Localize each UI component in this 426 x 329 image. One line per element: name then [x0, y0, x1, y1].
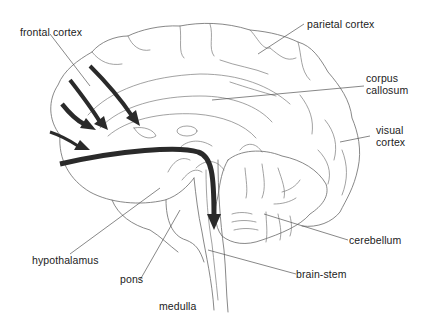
cerebellum-outline [215, 151, 327, 243]
leader-pons [140, 210, 180, 280]
label-pons: pons [120, 273, 143, 285]
temporal-lower [112, 200, 178, 252]
gyri [92, 24, 347, 195]
brain-diagram [0, 0, 426, 329]
leader-hypothalamus [70, 188, 160, 254]
leader-brain-stem [208, 250, 296, 274]
label-parietal-cortex: parietal cortex [307, 18, 374, 30]
thalamus-oval [177, 126, 197, 136]
leader-corpus-callosum [212, 86, 364, 100]
label-corpus-callosum-1: corpus [366, 72, 398, 84]
fornix [134, 127, 156, 137]
leader-parietal-cortex [258, 24, 304, 54]
pathway-arrows [50, 66, 221, 230]
leader-visual-cortex [340, 136, 370, 142]
label-visual-cortex-2: cortex [376, 136, 405, 148]
corpus-callosum-upper [100, 96, 272, 128]
label-medulla: medulla [159, 300, 196, 312]
cerebellum-folia [232, 164, 300, 242]
label-hypothalamus: hypothalamus [32, 254, 99, 266]
label-cerebellum: cerebellum [349, 234, 401, 246]
label-corpus-callosum-2: callosum [366, 84, 408, 96]
label-frontal-cortex: frontal cortex [20, 26, 82, 38]
label-visual-cortex-1: visual [376, 124, 403, 136]
diencephalon [168, 141, 262, 180]
label-brain-stem: brain-stem [296, 268, 347, 280]
leader-frontal-cortex [50, 34, 90, 86]
